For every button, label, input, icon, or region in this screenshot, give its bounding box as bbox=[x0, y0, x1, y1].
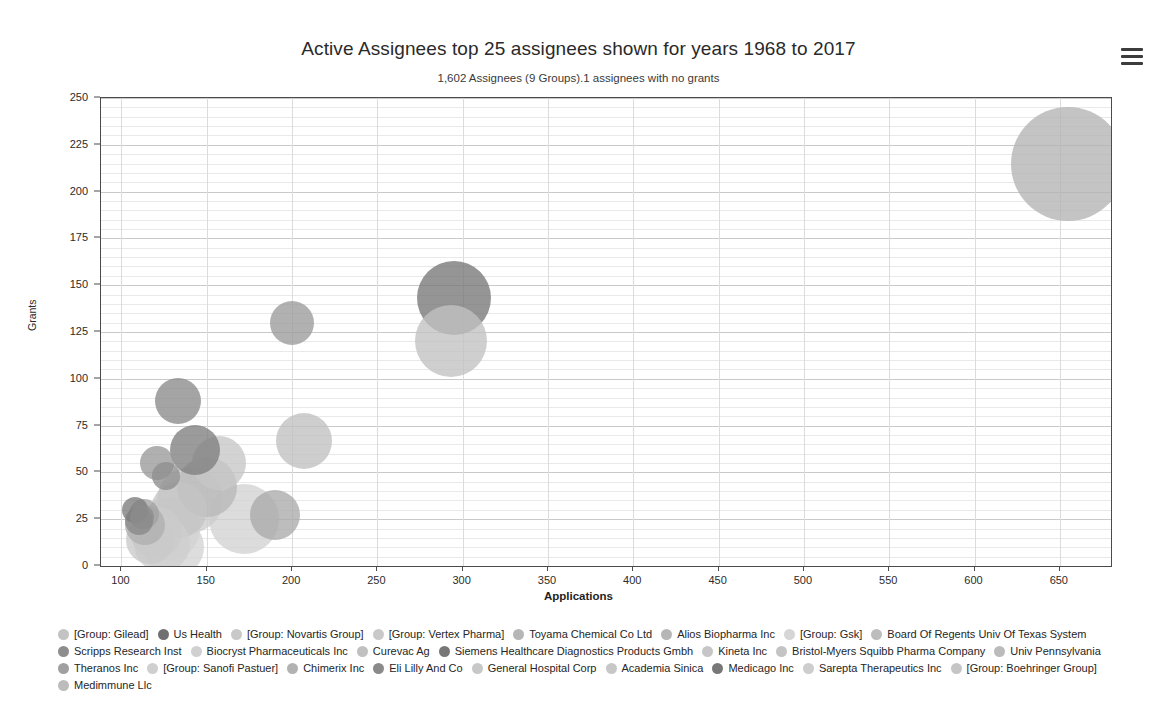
legend-swatch-icon bbox=[871, 629, 882, 640]
legend-item[interactable]: Toyama Chemical Co Ltd bbox=[513, 626, 652, 642]
chart-subtitle: 1,602 Assignees (9 Groups).1 assignees w… bbox=[0, 72, 1157, 84]
legend-item-label: Sarepta Therapeutics Inc bbox=[819, 660, 942, 676]
gridline-horizontal bbox=[101, 566, 1111, 567]
gridline-horizontal bbox=[101, 482, 1111, 483]
legend-swatch-icon bbox=[147, 663, 158, 674]
legend-item-label: Medicago Inc bbox=[728, 660, 793, 676]
y-axis-tick-label: 50 bbox=[48, 465, 88, 477]
gridline-horizontal bbox=[101, 126, 1111, 127]
y-axis-title: Grants bbox=[26, 299, 38, 331]
gridline-horizontal bbox=[101, 360, 1111, 361]
x-axis-tick-label: 100 bbox=[96, 574, 144, 586]
gridline-horizontal bbox=[101, 398, 1111, 399]
legend-item[interactable]: Bristol-Myers Squibb Pharma Company bbox=[776, 643, 985, 659]
legend-item[interactable]: [Group: Novartis Group] bbox=[231, 626, 364, 642]
gridline-horizontal bbox=[101, 304, 1111, 305]
legend-item[interactable]: Kineta Inc bbox=[702, 643, 767, 659]
legend-item[interactable]: Board Of Regents Univ Of Texas System bbox=[871, 626, 1086, 642]
legend-item-label: Univ Pennsylvania bbox=[1010, 643, 1101, 659]
legend-swatch-icon bbox=[803, 663, 814, 674]
legend-item[interactable]: [Group: Boehringer Group] bbox=[951, 660, 1097, 676]
legend-item[interactable]: Eli Lilly And Co bbox=[373, 660, 462, 676]
legend-item[interactable]: [Group: Gsk] bbox=[784, 626, 862, 642]
legend-item[interactable]: Academia Sinica bbox=[606, 660, 704, 676]
x-axis-title: Applications bbox=[0, 590, 1157, 602]
legend-item[interactable]: Biocryst Pharmaceuticals Inc bbox=[191, 643, 348, 659]
bubble-point[interactable] bbox=[270, 301, 314, 345]
legend-item[interactable]: [Group: Gilead] bbox=[58, 626, 149, 642]
bubble-point[interactable] bbox=[1011, 107, 1112, 221]
legend-item[interactable]: Medicago Inc bbox=[712, 660, 793, 676]
legend-swatch-icon bbox=[784, 629, 795, 640]
y-axis-tick-label: 250 bbox=[48, 91, 88, 103]
x-axis-tick-label: 400 bbox=[608, 574, 656, 586]
legend-item[interactable]: Theranos Inc bbox=[58, 660, 138, 676]
x-axis-tick-label: 350 bbox=[523, 574, 571, 586]
x-axis-tick-label: 450 bbox=[694, 574, 742, 586]
legend-swatch-icon bbox=[58, 663, 69, 674]
legend-item-label: Medimmune Llc bbox=[74, 677, 152, 693]
gridline-vertical bbox=[975, 98, 976, 566]
legend-item[interactable]: Alios Biopharma Inc bbox=[661, 626, 775, 642]
bubble-point[interactable] bbox=[415, 305, 487, 377]
hamburger-line bbox=[1121, 55, 1143, 58]
legend-item[interactable]: General Hospital Corp bbox=[472, 660, 597, 676]
bubble-point[interactable] bbox=[155, 378, 201, 424]
legend-item-label: Bristol-Myers Squibb Pharma Company bbox=[792, 643, 985, 659]
legend-swatch-icon bbox=[661, 629, 672, 640]
legend-item[interactable]: Chimerix Inc bbox=[287, 660, 364, 676]
x-axis-tick-label: 600 bbox=[950, 574, 998, 586]
legend-item[interactable]: [Group: Vertex Pharma] bbox=[373, 626, 505, 642]
legend-swatch-icon bbox=[439, 646, 450, 657]
legend-swatch-icon bbox=[513, 629, 524, 640]
legend: [Group: Gilead]Us Health[Group: Novartis… bbox=[58, 626, 1123, 694]
y-axis-tick-label: 175 bbox=[48, 231, 88, 243]
hamburger-menu-icon[interactable] bbox=[1121, 48, 1143, 65]
legend-item-label: [Group: Gilead] bbox=[74, 626, 149, 642]
legend-item[interactable]: Siemens Healthcare Diagnostics Products … bbox=[439, 643, 693, 659]
gridline-horizontal bbox=[101, 145, 1111, 146]
y-axis-tick-label: 25 bbox=[48, 512, 88, 524]
gridline-horizontal bbox=[101, 238, 1111, 239]
legend-item-label: General Hospital Corp bbox=[488, 660, 597, 676]
legend-item[interactable]: [Group: Sanofi Pastuer] bbox=[147, 660, 278, 676]
gridline-vertical bbox=[804, 98, 805, 566]
legend-item-label: Scripps Research Inst bbox=[74, 643, 182, 659]
x-axis-tick-label: 550 bbox=[864, 574, 912, 586]
legend-item[interactable]: Univ Pennsylvania bbox=[994, 643, 1101, 659]
bubble-point[interactable] bbox=[130, 505, 154, 529]
x-axis-tick-label: 500 bbox=[779, 574, 827, 586]
gridline-horizontal bbox=[101, 210, 1111, 211]
legend-item-label: Siemens Healthcare Diagnostics Products … bbox=[455, 643, 693, 659]
gridline-vertical bbox=[121, 98, 122, 566]
y-axis-tick-label: 150 bbox=[48, 278, 88, 290]
x-axis-tick-label: 300 bbox=[438, 574, 486, 586]
legend-item-label: Academia Sinica bbox=[622, 660, 704, 676]
legend-item-label: [Group: Boehringer Group] bbox=[967, 660, 1097, 676]
legend-item[interactable]: Curevac Ag bbox=[357, 643, 430, 659]
gridline-horizontal bbox=[101, 266, 1111, 267]
legend-item[interactable]: Scripps Research Inst bbox=[58, 643, 182, 659]
gridline-horizontal bbox=[101, 444, 1111, 445]
legend-swatch-icon bbox=[712, 663, 723, 674]
legend-item[interactable]: Sarepta Therapeutics Inc bbox=[803, 660, 942, 676]
gridline-horizontal bbox=[101, 472, 1111, 473]
plot-area[interactable] bbox=[100, 97, 1112, 567]
legend-item[interactable]: Medimmune Llc bbox=[58, 677, 152, 693]
legend-item-label: Toyama Chemical Co Ltd bbox=[529, 626, 652, 642]
gridline-horizontal bbox=[101, 248, 1111, 249]
legend-swatch-icon bbox=[776, 646, 787, 657]
gridline-horizontal bbox=[101, 229, 1111, 230]
bubble-point[interactable] bbox=[276, 413, 332, 469]
gridline-horizontal bbox=[101, 276, 1111, 277]
legend-swatch-icon bbox=[373, 629, 384, 640]
legend-item-label: Chimerix Inc bbox=[303, 660, 364, 676]
bubble-point[interactable] bbox=[152, 462, 180, 490]
legend-swatch-icon bbox=[58, 646, 69, 657]
bubble-point[interactable] bbox=[250, 490, 300, 540]
gridline-horizontal bbox=[101, 463, 1111, 464]
legend-item[interactable]: Us Health bbox=[158, 626, 222, 642]
y-axis-tick-label: 200 bbox=[48, 185, 88, 197]
legend-item-label: [Group: Novartis Group] bbox=[247, 626, 364, 642]
gridline-horizontal bbox=[101, 323, 1111, 324]
